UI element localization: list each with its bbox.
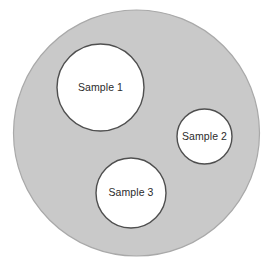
sample-2-label: Sample 2 [182, 130, 227, 142]
sample-1-label: Sample 1 [78, 81, 123, 93]
venn-diagram-svg: Sample 1 Sample 2 Sample 3 [0, 0, 271, 272]
sample-3-label: Sample 3 [108, 186, 153, 198]
venn-diagram-canvas: Sample 1 Sample 2 Sample 3 [0, 0, 271, 272]
